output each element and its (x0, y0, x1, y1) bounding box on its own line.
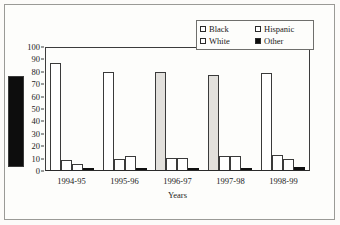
legend-swatch-icon (200, 38, 206, 44)
x-axis-tick-label: 1998-99 (269, 176, 297, 190)
y-axis-tick-mark (41, 71, 44, 72)
bar (219, 156, 230, 170)
bar-group (50, 48, 94, 170)
y-axis-tick-label: 0 (36, 167, 40, 175)
y-axis-tick-label: 70 (32, 80, 41, 88)
legend-swatch-icon (255, 26, 261, 32)
legend-swatch-icon (200, 26, 206, 32)
bar (155, 72, 166, 170)
y-axis-tick-mark (41, 84, 44, 85)
y-axis-tick-label: 100 (27, 43, 40, 51)
plot-area (45, 47, 310, 171)
bar (272, 155, 283, 170)
y-axis-tick-mark (41, 158, 44, 159)
x-axis-title: Years (45, 190, 310, 200)
y-axis-tick-label: 10 (32, 155, 41, 163)
bar (114, 159, 125, 170)
y-axis-tick-label: 40 (32, 117, 41, 125)
y-axis-tick-mark (41, 133, 44, 134)
legend-item: Other (255, 36, 310, 46)
legend-item: White (200, 36, 255, 46)
y-axis-tick-label: 50 (32, 105, 41, 113)
bar-group (261, 48, 305, 170)
bar-group (103, 48, 147, 170)
x-axis-tick-label: 1995-96 (110, 176, 138, 190)
bar (230, 156, 241, 170)
bar-group (208, 48, 252, 170)
y-axis-tick-mark (41, 96, 44, 97)
legend-item: Black (200, 24, 255, 34)
bar-group (155, 48, 199, 170)
bar (166, 158, 177, 170)
x-axis-tick-label: 1997-98 (216, 176, 244, 190)
bar (83, 168, 94, 170)
legend: BlackHispanicWhiteOther (196, 20, 314, 50)
y-axis-tick-label: 60 (32, 93, 41, 101)
x-axis-labels: 1994-951995-961996-971997-981998-99 (45, 176, 310, 190)
y-axis-tick-mark (41, 59, 44, 60)
bar (72, 164, 83, 170)
y-axis-tick-label: 90 (32, 55, 41, 63)
bar (188, 168, 199, 170)
y-axis-tick-label: 80 (32, 68, 41, 76)
y-axis: 0102030405060708090100 (20, 41, 44, 177)
chart-figure: 0102030405060708090100 1994-951995-96199… (0, 0, 340, 225)
bar (136, 168, 147, 170)
bar (261, 73, 272, 170)
bar-groups (46, 48, 309, 170)
x-axis-tick-label: 1994-95 (57, 176, 85, 190)
bar (61, 160, 72, 170)
legend-label: Other (264, 36, 283, 46)
y-axis-tick-mark (41, 146, 44, 147)
y-axis-tick-mark (41, 109, 44, 110)
y-axis-tick-mark (41, 121, 44, 122)
bar (103, 72, 114, 170)
bar (241, 168, 252, 170)
y-axis-tick-mark (41, 47, 44, 48)
bar (177, 158, 188, 170)
bar (283, 159, 294, 170)
bar (208, 75, 219, 170)
legend-label: White (209, 36, 230, 46)
legend-swatch-icon (255, 38, 261, 44)
y-axis-tick-label: 20 (32, 142, 41, 150)
bar (294, 167, 305, 170)
y-axis-tick-label: 30 (32, 130, 41, 138)
y-axis-tick-mark (41, 171, 44, 172)
legend-item: Hispanic (255, 24, 310, 34)
legend-label: Black (209, 24, 229, 34)
bar (125, 156, 136, 170)
x-axis-tick-label: 1996-97 (163, 176, 191, 190)
legend-label: Hispanic (264, 24, 294, 34)
bar (50, 63, 61, 170)
